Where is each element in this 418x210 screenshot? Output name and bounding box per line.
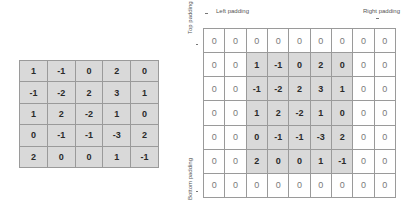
padding-cell: 0: [353, 101, 374, 125]
padding-cell: 0: [268, 174, 289, 198]
padding-cell: 0: [204, 53, 225, 77]
matrix-cell: -1: [48, 61, 76, 82]
matrix-cell: 0: [76, 61, 104, 82]
top-padding-marker: [196, 44, 198, 45]
right-padding-label: Right padding: [363, 8, 400, 14]
matrix-cell: 2: [20, 147, 48, 168]
padding-cell: 0: [375, 77, 396, 101]
matrix-cell: 2: [103, 61, 131, 82]
padding-cell: 0: [225, 53, 246, 77]
padded-matrix: 000000000001-10200000-1-2231000012-21000…: [203, 28, 396, 198]
matrix-cell: 0: [131, 61, 159, 82]
padding-cell: 0: [289, 29, 310, 53]
matrix-cell: 3: [103, 82, 131, 103]
padding-cell: 0: [353, 77, 374, 101]
matrix-cell: 0: [76, 147, 104, 168]
padding-cell: 0: [204, 150, 225, 174]
padding-cell: 0: [353, 174, 374, 198]
padding-cell: 0: [332, 29, 353, 53]
matrix-cell: 0: [289, 53, 310, 77]
padding-cell: 0: [225, 126, 246, 150]
matrix-cell: -1: [268, 126, 289, 150]
matrix-cell: 0: [332, 101, 353, 125]
padding-cell: 0: [353, 126, 374, 150]
matrix-cell: 0: [20, 125, 48, 146]
padding-cell: 0: [375, 150, 396, 174]
bottom-padding-label: Bottom padding: [187, 158, 193, 200]
matrix-cell: 1: [247, 53, 268, 77]
padding-cell: 0: [311, 29, 332, 53]
matrix-cell: -2: [289, 101, 310, 125]
matrix-cell: 1: [247, 101, 268, 125]
padding-cell: 0: [225, 101, 246, 125]
padding-cell: 0: [332, 174, 353, 198]
matrix-cell: 2: [268, 101, 289, 125]
left-padding-marker: [205, 13, 208, 14]
padding-cell: 0: [289, 174, 310, 198]
padding-cell: 0: [225, 150, 246, 174]
padding-cell: 0: [375, 29, 396, 53]
padding-cell: 0: [311, 174, 332, 198]
matrix-cell: -3: [311, 126, 332, 150]
matrix-cell: -1: [332, 150, 353, 174]
matrix-cell: 0: [332, 53, 353, 77]
matrix-cell: -1: [268, 53, 289, 77]
padding-cell: 0: [204, 29, 225, 53]
matrix-cell: 2: [131, 125, 159, 146]
padding-cell: 0: [375, 101, 396, 125]
bottom-padding-marker: [196, 191, 198, 192]
matrix-cell: 2: [76, 82, 104, 103]
matrix-cell: 2: [311, 53, 332, 77]
matrix-cell: -1: [20, 82, 48, 103]
matrix-cell: 1: [311, 101, 332, 125]
padding-cell: 0: [204, 174, 225, 198]
padding-cell: 0: [353, 53, 374, 77]
padding-cell: 0: [204, 126, 225, 150]
padding-cell: 0: [268, 29, 289, 53]
left-padding-label: Left padding: [216, 8, 249, 14]
input-matrix: 1-1020-1-223112-2100-1-1-322001-1: [19, 60, 159, 168]
padding-cell: 0: [353, 150, 374, 174]
matrix-cell: -2: [268, 77, 289, 101]
top-padding-label: Top padding: [187, 1, 193, 34]
matrix-cell: 0: [268, 150, 289, 174]
padding-cell: 0: [375, 174, 396, 198]
matrix-cell: 3: [311, 77, 332, 101]
matrix-cell: 2: [48, 104, 76, 125]
matrix-cell: -2: [48, 82, 76, 103]
right-padding-marker: [376, 18, 379, 19]
matrix-cell: -1: [48, 125, 76, 146]
matrix-cell: 2: [289, 77, 310, 101]
matrix-cell: 1: [332, 77, 353, 101]
matrix-cell: 0: [289, 150, 310, 174]
padding-cell: 0: [375, 53, 396, 77]
matrix-cell: 2: [247, 150, 268, 174]
padding-cell: 0: [247, 174, 268, 198]
matrix-cell: -3: [103, 125, 131, 146]
padding-cell: 0: [225, 174, 246, 198]
padding-cell: 0: [375, 126, 396, 150]
matrix-cell: 1: [20, 104, 48, 125]
matrix-cell: 0: [247, 126, 268, 150]
matrix-cell: 2: [332, 126, 353, 150]
padding-cell: 0: [204, 101, 225, 125]
matrix-cell: -2: [76, 104, 104, 125]
matrix-cell: 1: [103, 104, 131, 125]
matrix-cell: 1: [20, 61, 48, 82]
matrix-cell: -1: [289, 126, 310, 150]
matrix-cell: -1: [76, 125, 104, 146]
matrix-cell: 1: [103, 147, 131, 168]
matrix-cell: 0: [48, 147, 76, 168]
matrix-cell: 1: [311, 150, 332, 174]
padding-cell: 0: [353, 29, 374, 53]
padding-cell: 0: [225, 29, 246, 53]
padding-cell: 0: [247, 29, 268, 53]
matrix-cell: 1: [131, 82, 159, 103]
padding-cell: 0: [204, 77, 225, 101]
padding-cell: 0: [225, 77, 246, 101]
matrix-cell: -1: [247, 77, 268, 101]
matrix-cell: -1: [131, 147, 159, 168]
matrix-cell: 0: [131, 104, 159, 125]
